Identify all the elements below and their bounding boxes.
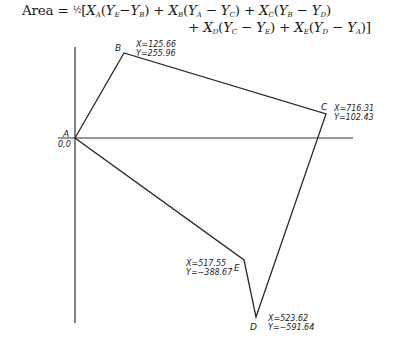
point-b-y: Y=255.96 bbox=[136, 49, 176, 58]
point-label-d: D bbox=[250, 322, 257, 332]
point-c-x: X=716.31 bbox=[333, 104, 374, 113]
traverse-polygon bbox=[75, 53, 326, 317]
point-e-x: X=517.55 bbox=[185, 259, 226, 268]
point-c-y: Y=102.43 bbox=[334, 113, 374, 122]
point-d-y: Y=−591.64 bbox=[268, 323, 314, 332]
point-label-b: B bbox=[115, 43, 121, 53]
point-label-e: E bbox=[234, 263, 240, 273]
polygon-diagram: A 0,0 B X=125.66 Y=255.96 C X=716.31 Y=1… bbox=[0, 0, 405, 340]
point-label-a: A bbox=[62, 129, 69, 139]
point-e-y: Y=−388.67 bbox=[186, 268, 233, 277]
origin-label: 0,0 bbox=[58, 140, 71, 149]
point-b-x: X=125.66 bbox=[135, 40, 176, 49]
point-d-x: X=523.62 bbox=[267, 314, 308, 323]
point-label-c: C bbox=[321, 102, 328, 112]
